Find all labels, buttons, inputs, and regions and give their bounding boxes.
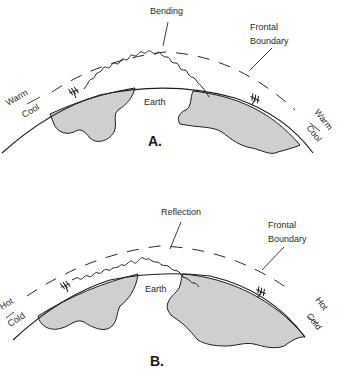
- boundary-label-a-line1: Frontal: [250, 22, 278, 32]
- upper-layer-label-left-a: Warm: [4, 87, 30, 107]
- lower-layer-label-right-a: Cool: [304, 123, 323, 144]
- reflection-leader-line: [170, 222, 181, 249]
- panel-a: Bending Frontal Boundary Earth Warm Cool…: [2, 6, 335, 153]
- antenna-icon: [59, 280, 72, 294]
- landmass-right: [167, 274, 305, 348]
- panel-label-b: B.: [150, 353, 164, 369]
- antenna-icon: [68, 86, 81, 100]
- boundary-leader-line-a: [250, 48, 272, 70]
- upper-layer-label-right-b: Hot: [313, 295, 330, 313]
- boundary-leader-line-b: [262, 247, 284, 270]
- panel-b: Reflection Frontal Boundary Earth Hot Co…: [0, 207, 330, 369]
- lower-layer-label-left-b: Cold: [6, 310, 27, 328]
- phenomenon-label-b: Reflection: [161, 207, 201, 217]
- diagram-figure: Bending Frontal Boundary Earth Warm Cool…: [0, 0, 339, 370]
- boundary-label-b-line2: Boundary: [268, 234, 307, 244]
- earth-label-b: Earth: [145, 284, 167, 294]
- lower-layer-label-left-a: Cool: [20, 102, 41, 120]
- boundary-label-b-line1: Frontal: [268, 220, 296, 230]
- landmass-left: [50, 88, 135, 141]
- antenna-icon: [247, 93, 261, 107]
- upper-layer-label-left-b: Hot: [0, 296, 15, 312]
- panel-label-a: A.: [148, 133, 162, 149]
- phenomenon-label-a: Bending: [150, 6, 183, 16]
- landmass-left: [38, 274, 138, 329]
- bending-leader-line: [163, 22, 168, 46]
- earth-label-a: Earth: [144, 97, 166, 107]
- lower-layer-label-right-b: Cold: [304, 311, 323, 332]
- boundary-label-a-line2: Boundary: [250, 36, 289, 46]
